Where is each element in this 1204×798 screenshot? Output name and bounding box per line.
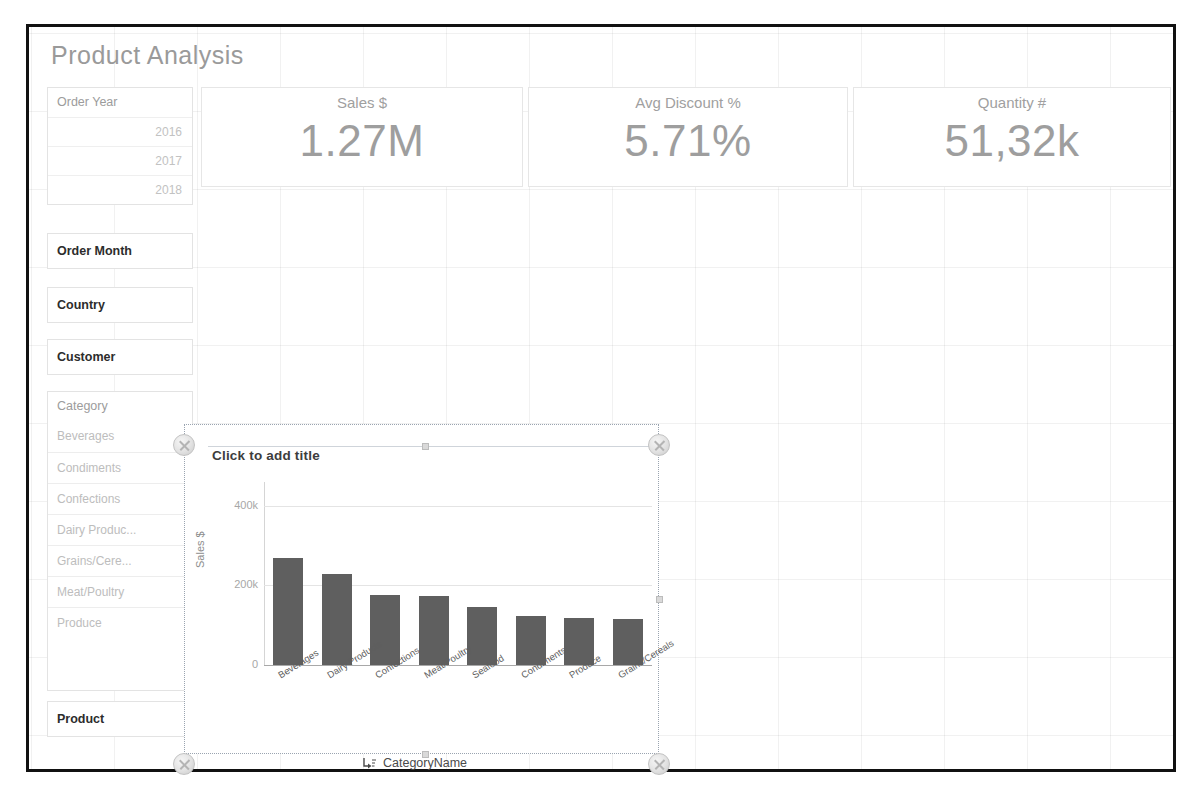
- list-item[interactable]: Grains/Cere...: [48, 545, 192, 576]
- list-item[interactable]: Confections: [48, 483, 192, 514]
- kpi-value-sales: 1.27M: [202, 113, 522, 169]
- kpi-value-avg-discount: 5.71%: [529, 113, 847, 169]
- filter-category[interactable]: Category Beverages Condiments Confection…: [47, 391, 193, 691]
- list-item[interactable]: Produce: [48, 607, 192, 638]
- kpi-label-avg-discount: Avg Discount %: [529, 94, 847, 111]
- plot-area: Sales $ 0200k400k BeveragesDairy Product…: [212, 472, 652, 722]
- filter-product[interactable]: Product: [47, 701, 193, 737]
- page-title: Product Analysis: [51, 41, 244, 70]
- filter-order-year-label: Order Year: [48, 88, 192, 117]
- resize-handle-top-right[interactable]: [648, 434, 670, 456]
- filter-value-2017[interactable]: 2017: [48, 146, 192, 175]
- filter-value-2016[interactable]: 2016: [48, 117, 192, 146]
- filter-customer[interactable]: Customer: [47, 339, 193, 375]
- y-tick-label: 400k: [212, 499, 258, 511]
- chart-top-rule: [208, 446, 658, 447]
- bar-chart-object[interactable]: Click to add title Sales $ 0200k400k Bev…: [184, 424, 659, 754]
- resize-handle-bottom-right[interactable]: [648, 753, 670, 775]
- bar[interactable]: [419, 596, 449, 665]
- x-axis-title: CategoryName: [383, 756, 467, 770]
- drill-down-icon[interactable]: [362, 757, 377, 770]
- dashboard-frame: Product Analysis Order Year 2016 2017 20…: [26, 24, 1176, 772]
- kpi-label-quantity: Quantity #: [854, 94, 1170, 111]
- bar[interactable]: [322, 574, 352, 665]
- bar[interactable]: [273, 558, 303, 665]
- filter-country[interactable]: Country: [47, 287, 193, 323]
- filter-value-2018[interactable]: 2018: [48, 175, 192, 204]
- resize-handle-bottom-left[interactable]: [173, 753, 195, 775]
- bar[interactable]: [370, 595, 400, 665]
- kpi-card-quantity[interactable]: Quantity # 51,32k: [853, 87, 1171, 187]
- kpi-value-quantity: 51,32k: [854, 113, 1170, 169]
- filter-order-year-values: 2016 2017 2018: [48, 117, 192, 204]
- resize-handle-right[interactable]: [656, 596, 663, 603]
- filter-pane: Order Year 2016 2017 2018 Order Month Co…: [47, 87, 193, 755]
- resize-handle-top[interactable]: [422, 443, 429, 450]
- filter-category-label: Category: [48, 392, 192, 421]
- kpi-card-avg-discount[interactable]: Avg Discount % 5.71%: [528, 87, 848, 187]
- y-tick-label: 200k: [212, 578, 258, 590]
- y-axis-line: [264, 482, 265, 665]
- kpi-label-sales: Sales $: [202, 94, 522, 111]
- list-item[interactable]: Dairy Produc...: [48, 514, 192, 545]
- kpi-card-sales[interactable]: Sales $ 1.27M: [201, 87, 523, 187]
- filter-country-label: Country: [48, 288, 192, 322]
- resize-handle-bottom[interactable]: [422, 751, 429, 758]
- list-item[interactable]: Meat/Poultry: [48, 576, 192, 607]
- filter-category-items: Beverages Condiments Confections Dairy P…: [48, 421, 192, 638]
- filter-order-month[interactable]: Order Month: [47, 233, 193, 269]
- x-axis-title-row: CategoryName: [362, 756, 467, 770]
- filter-product-label: Product: [48, 702, 192, 736]
- y-tick-label: 0: [212, 658, 258, 670]
- y-axis-title: Sales $: [194, 531, 206, 568]
- chart-title-placeholder[interactable]: Click to add title: [212, 448, 320, 463]
- filter-order-year[interactable]: Order Year 2016 2017 2018: [47, 87, 193, 205]
- gridline: [264, 506, 652, 507]
- filter-order-month-label: Order Month: [48, 234, 192, 268]
- resize-handle-top-left[interactable]: [173, 434, 195, 456]
- filter-customer-label: Customer: [48, 340, 192, 374]
- list-item[interactable]: Condiments: [48, 452, 192, 483]
- list-item[interactable]: Beverages: [48, 421, 192, 452]
